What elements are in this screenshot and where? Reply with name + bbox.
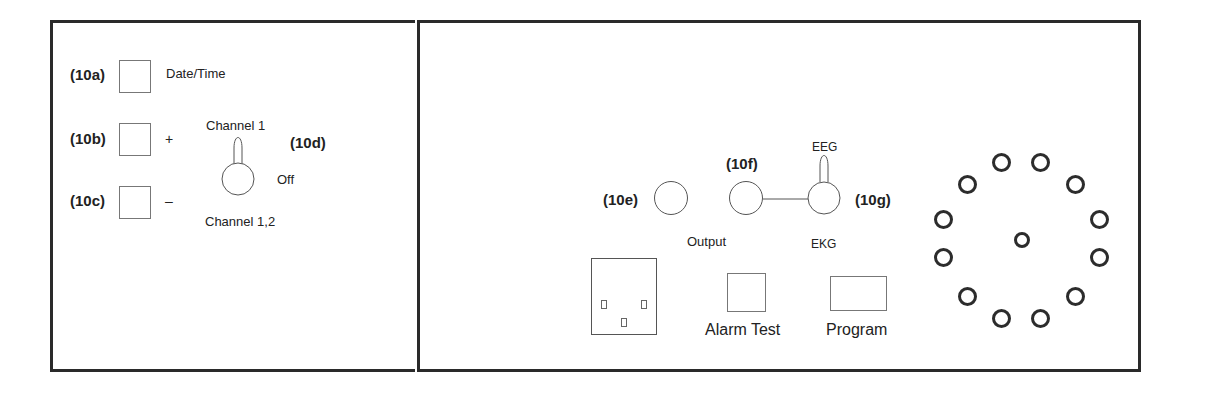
program-label: Program: [826, 321, 887, 339]
ekg-label: EKG: [811, 237, 836, 251]
date-time-button[interactable]: [119, 60, 151, 93]
connector-pin: [1090, 248, 1109, 267]
minus-button[interactable]: [119, 186, 151, 219]
date-time-label: Date/Time: [166, 66, 225, 81]
connector-pin: [934, 210, 953, 229]
channel-toggle-switch[interactable]: [222, 136, 262, 200]
connector-pin: [934, 248, 953, 267]
plus-button[interactable]: [119, 123, 151, 156]
connector-pin: [1090, 210, 1109, 229]
output-label: Output: [687, 234, 726, 249]
ref-label-10b: (10b): [70, 130, 106, 147]
channel-1-label: Channel 1: [206, 118, 265, 133]
ref-label-10c: (10c): [70, 192, 105, 209]
alarm-test-button[interactable]: [727, 273, 766, 312]
connector-pin: [992, 309, 1011, 328]
knob-10e[interactable]: [654, 181, 688, 215]
ref-label-10d: (10d): [290, 134, 326, 151]
connector-pin: [992, 153, 1011, 172]
connector-center-pin: [1014, 232, 1030, 248]
connector-pin: [958, 175, 977, 194]
ref-label-10e: (10e): [603, 191, 638, 208]
ref-label-10f: (10f): [726, 155, 758, 172]
channel-1-2-label: Channel 1,2: [205, 214, 275, 229]
program-button[interactable]: [830, 276, 887, 311]
alarm-test-label: Alarm Test: [705, 321, 780, 339]
power-socket: [591, 258, 659, 338]
connecting-line: [763, 198, 811, 200]
ref-label-10a: (10a): [70, 66, 105, 83]
eeg-ekg-toggle-switch[interactable]: [809, 156, 845, 218]
minus-label: –: [165, 193, 173, 209]
connector-pin: [1066, 287, 1085, 306]
plus-label: +: [165, 131, 173, 147]
connector-pin: [1031, 309, 1050, 328]
output-knob-10f[interactable]: [729, 181, 763, 215]
connector-pin: [1031, 153, 1050, 172]
off-label: Off: [277, 172, 294, 187]
ref-label-10g: (10g): [855, 191, 891, 208]
connector-pin: [1066, 175, 1085, 194]
connector-pin: [958, 287, 977, 306]
eeg-label: EEG: [812, 140, 837, 154]
